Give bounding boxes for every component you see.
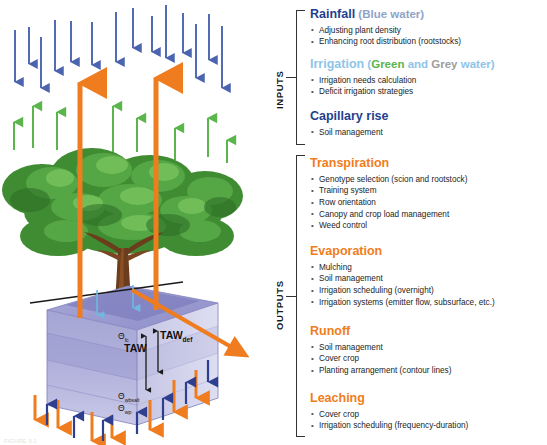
title-part: Leaching: [310, 391, 365, 405]
list-item: Genotype selection (scion and rootstock): [310, 174, 547, 186]
section-transpiration: TranspirationGenotype selection (scion a…: [310, 157, 547, 232]
list-item: Enhancing root distribution (rootstocks): [310, 36, 547, 48]
section-title-leaching: Leaching: [310, 392, 547, 406]
taw-label: TAW: [124, 342, 147, 354]
bullet-list-leaching: Cover cropIrrigation scheduling (frequen…: [310, 409, 547, 432]
title-part: Transpiration: [310, 156, 389, 170]
list-item: Planting arrangement (contour lines): [310, 365, 547, 377]
sections-container: Rainfall (Blue water)Adjusting plant den…: [310, 0, 547, 445]
list-item: Irrigation needs calculation: [310, 75, 547, 87]
bullet-list-transpiration: Genotype selection (scion and rootstock)…: [310, 174, 547, 232]
list-item: Irrigation scheduling (frequency-duratio…: [310, 420, 547, 432]
list-item: Irrigation systems (emitter flow, subsur…: [310, 297, 547, 309]
list-item: Row orientation: [310, 197, 547, 209]
inputs-brace: [296, 10, 305, 145]
title-part: Capillary rise: [310, 109, 389, 123]
title-part: Rainfall: [310, 7, 355, 21]
title-part: (Blue water): [355, 8, 424, 20]
theta-wbsalt-label: Θwbsalt: [118, 391, 140, 403]
figure-caption: FIGURE 3.1: [4, 438, 37, 444]
section-title-runoff: Runoff: [310, 325, 547, 339]
section-irrigation: Irrigation (Green and Grey water)Irrigat…: [310, 58, 547, 98]
section-evaporation: EvaporationMulchingSoil managementIrriga…: [310, 245, 547, 308]
list-item: Cover crop: [310, 353, 547, 365]
list-item: Soil management: [310, 342, 547, 354]
list-item: Soil management: [310, 273, 547, 285]
list-item: Soil management: [310, 127, 547, 139]
section-title-transpiration: Transpiration: [310, 157, 547, 171]
figure-root: Θfc TAW TAWdef Θwbsalt Θwp FIGURE 3.1 IN…: [0, 0, 547, 445]
outputs-brace: [296, 155, 305, 437]
title-part: Irrigation: [310, 57, 364, 71]
title-part: water): [458, 58, 495, 70]
bullet-list-irrigation: Irrigation needs calculationDeficit irri…: [310, 75, 547, 98]
bullet-list-evaporation: MulchingSoil managementIrrigation schedu…: [310, 262, 547, 309]
list-item: Adjusting plant density: [310, 25, 547, 37]
title-part: Evaporation: [310, 244, 382, 258]
list-item: Weed control: [310, 220, 547, 232]
outputs-axis-label: OUTPUTS: [274, 245, 285, 365]
canopy-green-arrows: [14, 106, 227, 163]
title-part: Runoff: [310, 324, 350, 338]
section-capillary-rise: Capillary riseSoil management: [310, 110, 547, 138]
outputs-brace-stem: [286, 296, 297, 297]
list-item: Training system: [310, 185, 547, 197]
section-title-irrigation: Irrigation (Green and Grey water): [310, 58, 547, 72]
bullet-list-runoff: Soil managementCover cropPlanting arrang…: [310, 342, 547, 377]
title-part: and: [404, 58, 431, 70]
list-item: Canopy and crop load management: [310, 209, 547, 221]
bullet-list-rainfall: Adjusting plant densityEnhancing root di…: [310, 25, 547, 48]
inputs-brace-stem: [286, 77, 297, 78]
list-item: Deficit irrigation strategies: [310, 86, 547, 98]
bullet-list-capillary-rise: Soil management: [310, 127, 547, 139]
section-title-evaporation: Evaporation: [310, 245, 547, 259]
list-item: Cover crop: [310, 409, 547, 421]
section-runoff: RunoffSoil managementCover cropPlanting …: [310, 325, 547, 377]
theta-wp-label: Θwp: [118, 403, 131, 415]
taw-def-label: TAWdef: [160, 329, 192, 343]
rainfall-arrows: [15, 5, 222, 88]
section-title-rainfall: Rainfall (Blue water): [310, 8, 547, 22]
list-item: Irrigation scheduling (overnight): [310, 285, 547, 297]
section-leaching: LeachingCover cropIrrigation scheduling …: [310, 392, 547, 432]
water-balance-illustration: Θfc TAW TAWdef Θwbsalt Θwp FIGURE 3.1: [0, 0, 272, 445]
title-part: Green: [371, 58, 404, 70]
theta-fc-label: Θfc: [118, 331, 129, 343]
inputs-axis-label: INPUTS: [274, 40, 285, 140]
section-title-capillary-rise: Capillary rise: [310, 110, 547, 124]
management-options-panel: INPUTS OUTPUTS Rainfall (Blue water)Adju…: [272, 0, 547, 445]
tree-canopy: [2, 148, 243, 256]
section-rainfall: Rainfall (Blue water)Adjusting plant den…: [310, 8, 547, 48]
list-item: Mulching: [310, 262, 547, 274]
title-part: Grey: [431, 58, 457, 70]
